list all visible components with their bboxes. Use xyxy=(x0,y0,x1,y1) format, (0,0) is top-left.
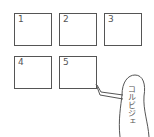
figure-label: コルビジェ xyxy=(126,85,134,125)
